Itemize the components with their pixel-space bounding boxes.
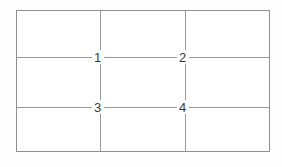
node-label-1: 1 — [92, 51, 103, 64]
node-label-4: 4 — [177, 101, 188, 114]
diagram-canvas: 1 2 3 4 — [0, 0, 282, 167]
grid-svg — [0, 0, 282, 167]
grid-figure — [0, 0, 282, 167]
outer-frame — [17, 11, 270, 152]
node-label-3: 3 — [92, 101, 103, 114]
node-label-2: 2 — [177, 51, 188, 64]
